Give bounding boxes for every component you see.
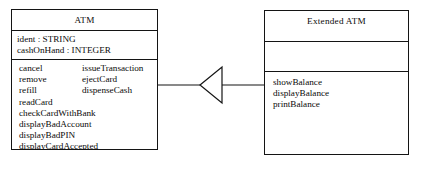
- operation-item: showBalance: [273, 77, 408, 88]
- class-name-atm: ATM: [12, 10, 157, 30]
- class-box-atm[interactable]: ATM ident : STRING cashOnHand : INTEGER …: [11, 9, 158, 150]
- operation-item: displayBadAccount: [19, 119, 112, 130]
- operation-item: displayCardAccepted: [19, 141, 112, 149]
- operation-item: checkCardWithBank: [19, 108, 112, 119]
- attribute-item: cashOnHand : INTEGER: [17, 45, 157, 56]
- generalization-hollow-triangle-icon: [200, 67, 222, 103]
- attribute-item: ident : STRING: [17, 34, 157, 45]
- attributes-compartment-atm: ident : STRING cashOnHand : INTEGER: [12, 30, 157, 59]
- operation-item: displayBalance: [273, 88, 408, 99]
- operation-item: displayBadPIN: [19, 130, 112, 141]
- attribute-list-extended-atm: [265, 42, 408, 48]
- operations-columns-atm: cancel remove refill readCard checkCardW…: [12, 60, 157, 149]
- operation-item: printBalance: [273, 99, 408, 110]
- operations-compartment-atm: cancel remove refill readCard checkCardW…: [12, 59, 157, 149]
- uml-class-diagram: ATM ident : STRING cashOnHand : INTEGER …: [0, 0, 423, 170]
- operation-item: readCard: [19, 97, 112, 108]
- operation-list-extended-atm: showBalance displayBalance printBalance: [265, 72, 408, 111]
- operations-compartment-extended-atm: showBalance displayBalance printBalance: [265, 71, 408, 154]
- operation-item: issueTransaction: [82, 63, 143, 74]
- operation-item: dispenseCash: [82, 85, 143, 96]
- class-box-extended-atm[interactable]: Extended ATM showBalance displayBalance …: [264, 10, 409, 155]
- attributes-compartment-extended-atm: [265, 41, 408, 71]
- operation-list-atm-right: issueTransaction ejectCard dispenseCash: [82, 63, 143, 97]
- operation-item: ejectCard: [82, 74, 143, 85]
- class-name-extended-atm: Extended ATM: [265, 11, 408, 41]
- attribute-list-atm: ident : STRING cashOnHand : INTEGER: [12, 31, 157, 59]
